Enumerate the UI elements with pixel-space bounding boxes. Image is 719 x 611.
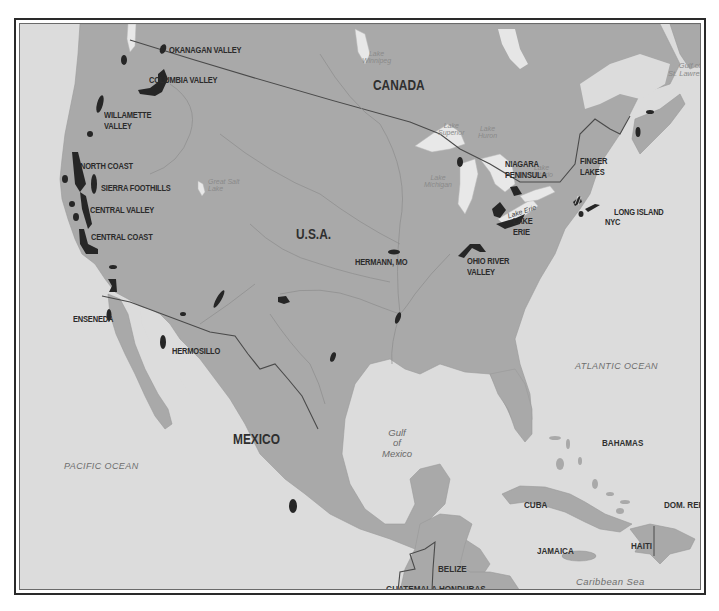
arizona-dot [180,312,186,316]
label-finger-lakes: FINGER LAKES [580,156,607,177]
label-hermosillo: HERMOSILLO [172,347,220,356]
label-okanagan-valley: OKANAGAN VALLEY [169,46,241,55]
label-lake-michigan: Lake Michigan [424,174,452,188]
label-gulf-of-mexico: Gulf of Mexico [382,428,412,459]
north-coast-dot [62,175,68,183]
label-mexico: MEXICO [233,432,280,446]
puget-shape [121,55,127,65]
label-long-island: LONG ISLAND [614,208,664,217]
hermann-shape [388,250,400,255]
label-niagara-peninsula: NIAGARA PENINSULA [505,159,547,180]
label-great-salt-lake: Great Salt Lake [208,178,240,192]
label-central-valley: CENTRAL VALLEY [90,206,154,215]
cv-dot-1 [69,201,75,207]
label-lake-superior: Lake Superior [438,122,464,136]
nb-shape [636,127,641,137]
socal-shape-2 [108,279,117,292]
label-canada: CANADA [373,78,425,92]
michigan-shape [457,157,463,167]
nova-scotia [632,94,685,154]
florida [490,369,532,442]
label-gulf-st-lawrence: Gulf of St. Lawrence [668,62,701,77]
label-cuba: CUBA [524,500,547,510]
map-canvas [20,24,701,590]
label-ohio-river-valley: OHIO RIVER VALLEY [467,256,509,277]
label-columbia-valley: COLUMBIA VALLEY [149,76,217,85]
wine-regions-map: CANADA U.S.A. MEXICO PACIFIC OCEAN ATLAN… [19,23,701,590]
label-north-coast: NORTH COAST [80,162,133,171]
label-central-coast: CENTRAL COAST [91,233,153,242]
oregon-dot [87,131,93,137]
label-usa: U.S.A. [296,227,331,241]
label-lake-winnipeg: Lake Winnipeg [362,50,391,64]
sierra-shape [91,174,97,194]
label-hermann-mo: HERMANN, MO [355,258,408,267]
label-enseneda: ENSENEDA [73,315,113,324]
label-pacific-ocean: PACIFIC OCEAN [64,462,139,471]
nova-scotia-shape [646,110,654,114]
label-haiti: HAITI [631,541,652,551]
label-sierra-foothills: SIERRA FOOTHILLS [101,184,171,193]
label-jamaica: JAMAICA [537,546,574,556]
label-bahamas: BAHAMAS [602,438,643,448]
label-dom-rep: DOM. REP. [664,500,701,510]
socal-dot-1 [109,265,117,269]
label-belize: BELIZE [438,564,467,574]
cv-dot-2 [73,213,79,221]
mexico-central-shape [289,499,297,513]
long-island-shape [585,204,600,212]
label-willamette-valley: WILLAMETTE VALLEY [104,110,151,132]
label-nyc: NYC [605,218,620,227]
label-honduras: HONDURAS [439,584,486,590]
hermosillo-shape [160,335,166,349]
label-lake-erie-region: LAKE ERIE [513,216,533,237]
label-atlantic-ocean: ATLANTIC OCEAN [575,362,658,371]
label-caribbean-sea: Caribbean Sea [576,577,645,587]
label-guatemala: GUATEMALA [386,584,437,590]
label-lake-huron: Lake Huron [478,125,497,139]
nyc-shape [579,211,584,217]
